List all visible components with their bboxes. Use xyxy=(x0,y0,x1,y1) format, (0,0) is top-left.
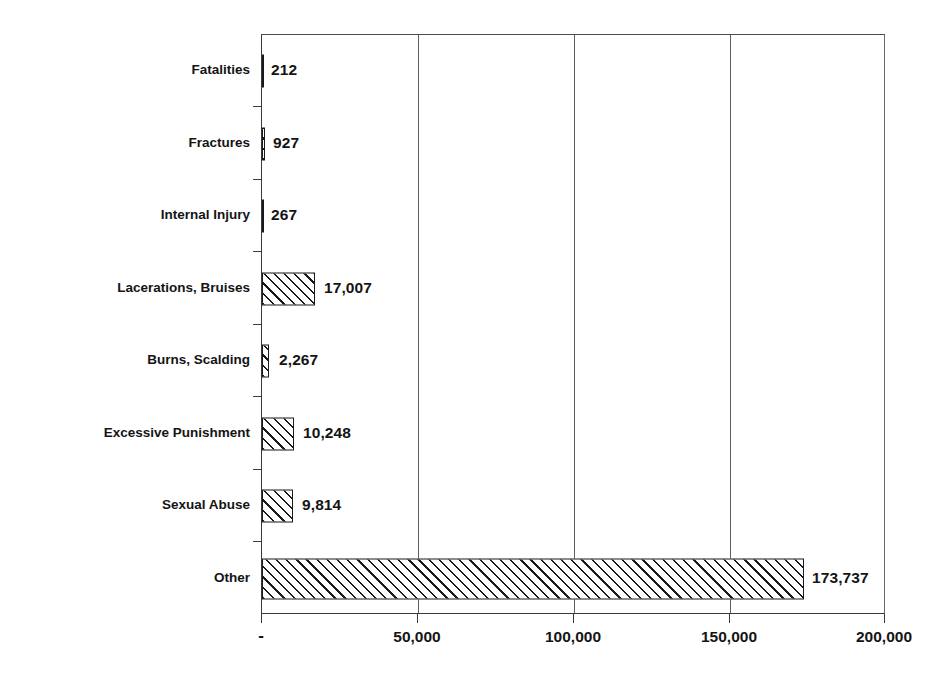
bar-band xyxy=(262,180,884,253)
value-label-other: 173,737 xyxy=(812,569,869,587)
value-label-internal-injury: 267 xyxy=(271,206,297,224)
bar-band xyxy=(262,470,884,543)
x-tick-200000 xyxy=(884,614,885,623)
y-tick xyxy=(253,396,262,397)
y-axis-label-text: Sexual Abuse xyxy=(162,497,250,512)
x-tick-50000 xyxy=(417,614,418,623)
x-tick-100000 xyxy=(573,614,574,623)
x-tick-150000 xyxy=(729,614,730,623)
y-axis-label-excessive-punishment: Excessive Punishment xyxy=(0,425,250,440)
y-tick xyxy=(253,251,262,252)
value-label-fatalities: 212 xyxy=(271,61,297,79)
y-axis-label-fractures: Fractures xyxy=(0,135,250,150)
y-axis-label-text: Lacerations, Bruises xyxy=(117,280,250,295)
x-axis-label-0: - xyxy=(258,626,264,646)
bar-band xyxy=(262,543,884,616)
bar-chart: Fatalities Fractures Internal Injury Lac… xyxy=(0,0,948,695)
value-label-burns-scalding: 2,267 xyxy=(279,351,318,369)
y-axis-label-fatalities: Fatalities xyxy=(0,62,250,77)
value-label-fractures: 927 xyxy=(273,134,299,152)
value-label-excessive-punishment: 10,248 xyxy=(303,424,351,442)
y-tick xyxy=(253,469,262,470)
y-tick xyxy=(253,179,262,180)
bar-sexual-abuse xyxy=(262,490,293,523)
y-axis-label-text: Fractures xyxy=(188,135,250,150)
y-axis-label-lacerations-bruises: Lacerations, Bruises xyxy=(0,280,250,295)
x-axis-label-150000: 150,000 xyxy=(701,628,757,646)
bar-fractures xyxy=(262,127,265,160)
y-axis-label-text: Fatalities xyxy=(191,62,250,77)
y-tick xyxy=(253,541,262,542)
value-label-sexual-abuse: 9,814 xyxy=(302,496,341,514)
x-tick-0 xyxy=(261,614,262,623)
x-axis-label-200000: 200,000 xyxy=(856,628,912,646)
y-axis-label-text: Excessive Punishment xyxy=(104,425,250,440)
bar-lacerations-bruises xyxy=(262,272,315,305)
bar-internal-injury xyxy=(262,200,264,233)
y-axis-label-internal-injury: Internal Injury xyxy=(0,207,250,222)
plot-area xyxy=(261,34,885,614)
bar-band xyxy=(262,108,884,181)
y-axis-label-text: Other xyxy=(214,570,250,585)
x-axis-label-100000: 100,000 xyxy=(545,628,601,646)
bar-fatalities xyxy=(262,55,264,88)
bar-band xyxy=(262,325,884,398)
y-axis-label-sexual-abuse: Sexual Abuse xyxy=(0,497,250,512)
y-axis-label-burns-scalding: Burns, Scalding xyxy=(0,352,250,367)
y-tick xyxy=(253,106,262,107)
y-tick xyxy=(253,324,262,325)
bar-burns-scalding xyxy=(262,345,269,378)
bar-band xyxy=(262,35,884,108)
x-axis-label-50000: 50,000 xyxy=(393,628,440,646)
bar-other xyxy=(262,558,804,599)
bar-excessive-punishment xyxy=(262,417,294,450)
y-axis-label-text: Internal Injury xyxy=(161,207,250,222)
bar-band xyxy=(262,398,884,471)
y-axis-label-text: Burns, Scalding xyxy=(147,352,250,367)
value-label-lacerations-bruises: 17,007 xyxy=(324,279,372,297)
y-axis-label-other: Other xyxy=(0,570,250,585)
